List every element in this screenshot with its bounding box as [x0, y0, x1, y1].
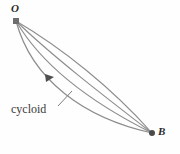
point-B-marker	[149, 130, 155, 136]
curve-path-4-cycloid	[16, 21, 152, 133]
cycloid-diagram: O B cycloid	[0, 0, 180, 154]
point-O-label: O	[11, 3, 19, 14]
curve-path-3	[16, 21, 152, 133]
curve-path-1-shallow	[16, 21, 152, 133]
cycloid-annotation-label: cycloid	[11, 103, 46, 115]
diagram-canvas	[0, 0, 180, 154]
curve-path-2	[16, 21, 152, 133]
point-B-label: B	[158, 126, 165, 137]
point-O-marker	[13, 18, 19, 24]
direction-arrow-icon	[45, 74, 54, 82]
